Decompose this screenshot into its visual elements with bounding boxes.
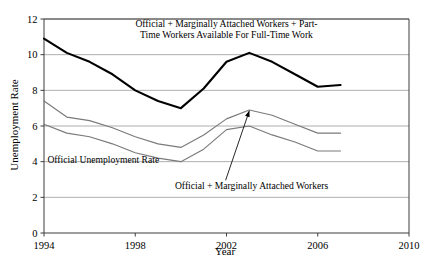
annotation-official-label: Official Unemployment Rate: [47, 154, 159, 165]
y-tick-label: 6: [32, 121, 37, 132]
x-tick-label: 1998: [125, 240, 146, 251]
y-tick-label: 12: [27, 14, 38, 25]
x-axis-title: Year: [215, 245, 236, 257]
x-tick-label: 2010: [399, 240, 420, 251]
annotation-u6-label: Time Workers Available For Full-Time Wor…: [140, 29, 313, 40]
y-tick-label: 0: [32, 228, 37, 239]
y-axis-title: Unemployment Rate: [8, 79, 20, 170]
y-tick-label: 4: [32, 156, 38, 167]
y-tick-label: 2: [32, 192, 37, 203]
unemployment-rate-line-chart: 024681012 19941998200220062010 Official …: [0, 0, 432, 261]
x-tick-label: 1994: [34, 240, 56, 251]
chart-figure: 024681012 19941998200220062010 Official …: [0, 0, 432, 261]
y-tick-label: 8: [32, 85, 37, 96]
y-tick-label: 10: [27, 49, 38, 60]
x-tick-label: 2006: [307, 240, 328, 251]
annotation-u5-label: Official + Marginally Attached Workers: [175, 180, 329, 191]
annotation-u6-label: Official + Marginally Attached Workers +…: [135, 18, 317, 29]
